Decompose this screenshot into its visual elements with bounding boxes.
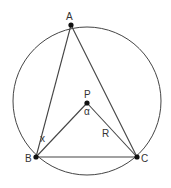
annotation-alpha: α <box>84 106 90 117</box>
annotation-r: R <box>102 128 109 139</box>
point-c <box>134 154 139 159</box>
annotations: αxR <box>40 106 109 144</box>
segment-pc <box>87 103 137 157</box>
label-c: C <box>141 153 148 164</box>
label-a: A <box>66 11 73 22</box>
point-a <box>68 22 73 27</box>
point-p <box>84 100 89 105</box>
point-b <box>33 154 38 159</box>
label-b: B <box>25 153 32 164</box>
annotation-x: x <box>40 133 45 144</box>
label-p: P <box>84 89 91 100</box>
geometry-diagram: ABCP αxR <box>0 0 171 188</box>
